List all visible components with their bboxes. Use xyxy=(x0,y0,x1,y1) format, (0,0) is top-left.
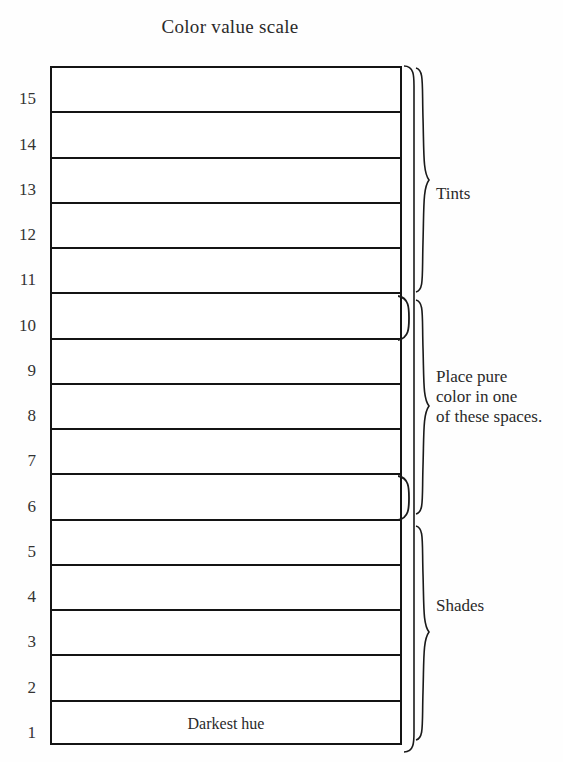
page-title: Color value scale xyxy=(0,16,460,38)
color-value-scale-figure: Color value scale 151413121110987654321 … xyxy=(0,0,563,762)
row-number-9: 9 xyxy=(28,362,37,379)
row-number-1: 1 xyxy=(28,724,37,741)
place-pure-color-line-1: Place pure xyxy=(436,367,542,387)
place-pure-color-line-2: color in one xyxy=(436,387,542,407)
step-6-bracket xyxy=(398,476,409,520)
value-row-10[interactable] xyxy=(52,294,400,339)
value-row-6[interactable] xyxy=(52,475,400,520)
place-pure-color-label: Place pure color in one of these spaces. xyxy=(436,367,542,427)
value-row-3[interactable] xyxy=(52,611,400,656)
value-row-4[interactable] xyxy=(52,566,400,611)
row-note-1: Darkest hue xyxy=(188,715,265,733)
row-number-7: 7 xyxy=(28,452,37,469)
row-number-8: 8 xyxy=(28,407,37,424)
tints-label: Tints xyxy=(436,184,470,204)
value-row-11[interactable] xyxy=(52,249,400,294)
place-pure-color-line-3: of these spaces. xyxy=(436,407,542,427)
row-number-14: 14 xyxy=(19,136,36,153)
row-number-axis: 151413121110987654321 xyxy=(0,66,44,745)
value-row-15[interactable] xyxy=(52,68,400,113)
value-row-14[interactable] xyxy=(52,113,400,158)
row-number-5: 5 xyxy=(28,543,37,560)
row-number-3: 3 xyxy=(28,633,37,650)
step-10-bracket xyxy=(398,296,409,340)
value-row-2[interactable] xyxy=(52,656,400,701)
row-number-12: 12 xyxy=(19,226,36,243)
value-row-13[interactable] xyxy=(52,159,400,204)
row-number-11: 11 xyxy=(20,271,36,288)
shades-label: Shades xyxy=(436,596,484,616)
value-row-1[interactable]: Darkest hue xyxy=(52,702,400,747)
row-number-4: 4 xyxy=(28,588,37,605)
shades-brace xyxy=(416,526,429,740)
value-row-12[interactable] xyxy=(52,204,400,249)
value-row-5[interactable] xyxy=(52,521,400,566)
row-number-6: 6 xyxy=(28,498,37,515)
row-number-10: 10 xyxy=(19,317,36,334)
row-number-15: 15 xyxy=(19,90,36,107)
tints-brace xyxy=(416,68,429,292)
row-number-2: 2 xyxy=(28,679,37,696)
value-row-8[interactable] xyxy=(52,385,400,430)
outer-frame-curve xyxy=(404,66,414,752)
row-number-13: 13 xyxy=(19,181,36,198)
value-scale-grid: Darkest hue xyxy=(50,66,402,745)
place-pure-color-brace xyxy=(416,300,429,514)
value-row-9[interactable] xyxy=(52,340,400,385)
value-row-7[interactable] xyxy=(52,430,400,475)
